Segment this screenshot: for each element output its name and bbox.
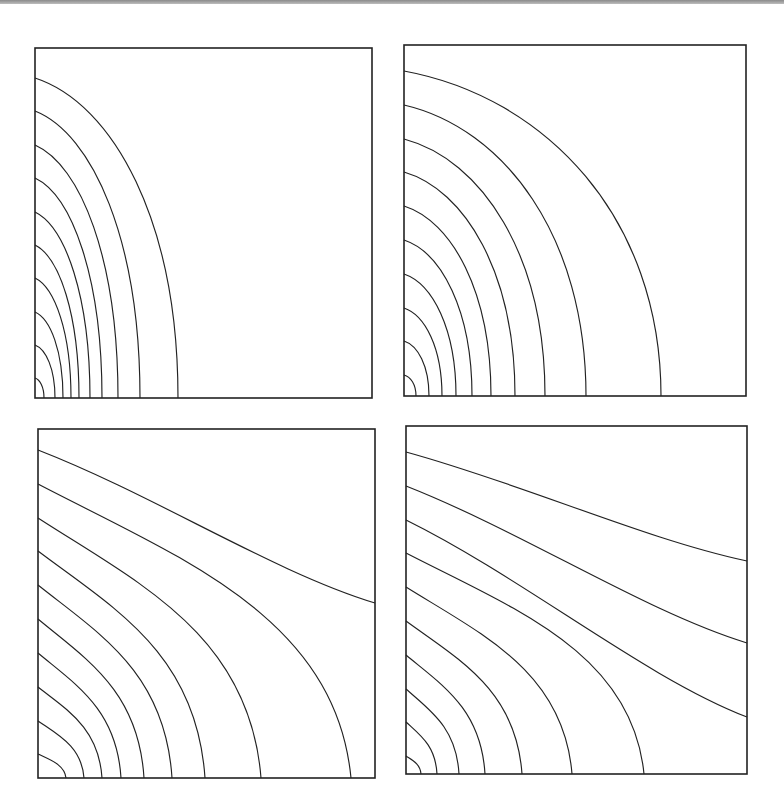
contour-line [35,278,71,398]
panel-bottom-left [38,429,375,778]
contour-line [38,484,351,778]
contour-line [38,551,205,778]
contour-line [35,145,118,398]
contour-line [406,756,421,774]
contour-line [38,585,172,778]
contour-line [404,206,491,396]
contour-line [406,587,572,774]
contour-line [35,378,44,398]
contour-line [38,619,144,778]
panel-frame [406,426,747,774]
contour-line [406,621,522,774]
contour-line [35,78,178,398]
contour-line [38,721,84,778]
contour-line [38,754,66,778]
contour-line [406,722,437,774]
panel-top-left [35,48,372,398]
contour-line [404,308,442,396]
contour-line [404,71,661,396]
contour-line [404,375,416,396]
contour-line [404,341,429,396]
contour-line [35,212,90,398]
contour-line [406,486,747,643]
contour-line [38,687,102,778]
panel-frame [404,45,746,396]
contour-line [35,111,140,398]
panel-top-right [404,45,746,396]
contour-line [35,178,102,398]
contour-line [38,450,375,603]
contour-figure [0,0,784,811]
contour-line [404,240,472,396]
contour-line [35,312,63,398]
contour-line [404,139,545,396]
contour-line [35,345,55,398]
contour-line [406,452,747,561]
panel-frame [38,429,375,778]
contour-line [406,553,644,774]
panel-frame [35,48,372,398]
contour-line [38,518,261,778]
panel-bottom-right [406,426,747,774]
